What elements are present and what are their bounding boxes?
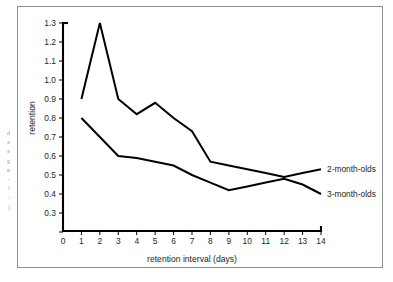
margin-text-line: - xyxy=(0,174,10,183)
margin-text-line: g xyxy=(0,156,10,165)
x-tick-label: 3 xyxy=(116,236,121,246)
x-tick-label: 14 xyxy=(316,236,326,246)
y-tick-label: 0.9 xyxy=(44,94,56,104)
margin-text-line: e xyxy=(0,146,10,155)
x-tick-label: 13 xyxy=(298,236,308,246)
x-tick-label: 6 xyxy=(171,236,176,246)
y-tick-label: 1.1 xyxy=(44,56,56,66)
x-tick-label: 8 xyxy=(208,236,213,246)
series-label-2-month-olds: 2-month-olds xyxy=(327,164,376,174)
y-axis-tick-labels: 0.30.40.50.60.70.80.91.01.11.21.3 xyxy=(44,18,56,218)
x-tick-label: 4 xyxy=(134,236,139,246)
y-tick-label: 0.4 xyxy=(44,189,56,199)
y-tick-label: 0.7 xyxy=(44,132,56,142)
data-line-3-month-olds xyxy=(81,118,321,194)
x-tick-label: 5 xyxy=(153,236,158,246)
y-tick-label: 0.3 xyxy=(44,208,56,218)
y-tick-label: 1.2 xyxy=(44,37,56,47)
margin-text-line: : xyxy=(0,192,10,201)
margin-text-line: d xyxy=(0,128,10,137)
x-tick-label: 2 xyxy=(98,236,103,246)
y-axis-title: retention xyxy=(27,101,37,135)
y-tick-label: 0.5 xyxy=(44,170,56,180)
series-label-3-month-olds: 3-month-olds xyxy=(327,189,376,199)
margin-text-line: n xyxy=(0,165,10,174)
x-axis-title: retention interval (days) xyxy=(147,254,237,264)
page-margin-clipped-text: deegn-t:) xyxy=(0,128,10,211)
y-tick-label: 1.3 xyxy=(44,18,56,28)
x-tick-label: 11 xyxy=(261,236,270,246)
chart-frame: 0.30.40.50.60.70.80.91.01.11.21.3 012345… xyxy=(17,6,383,268)
x-tick-label: 1 xyxy=(79,236,84,246)
y-tick-label: 0.8 xyxy=(44,113,56,123)
y-tick-label: 1.0 xyxy=(44,75,56,85)
line-chart-svg: 0.30.40.50.60.70.80.91.01.11.21.3 012345… xyxy=(18,7,384,269)
x-tick-label: 7 xyxy=(190,236,195,246)
margin-text-line: t xyxy=(0,183,10,192)
x-tick-label: 10 xyxy=(243,236,253,246)
x-tick-label: 0 xyxy=(61,236,66,246)
chart-plot-area: 0.30.40.50.60.70.80.91.01.11.21.3 012345… xyxy=(18,7,384,269)
x-axis-tick-labels: 01234567891011121314 xyxy=(61,236,326,246)
y-tick-label: 0.6 xyxy=(44,151,56,161)
x-tick-label: 9 xyxy=(227,236,232,246)
x-tick-label: 12 xyxy=(279,236,289,246)
margin-text-line: e xyxy=(0,137,10,146)
margin-text-line: ) xyxy=(0,202,10,211)
